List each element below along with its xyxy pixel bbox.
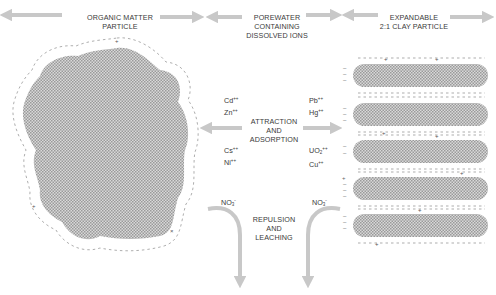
ion-uo2: UO2++: [309, 144, 328, 158]
organic-label-line2: PARTICLE: [80, 22, 160, 31]
porewater-label-line3: DISSOLVED IONS: [242, 31, 312, 40]
attraction-line3: ADSORPTION: [243, 135, 305, 144]
svg-text:–: –: [343, 225, 347, 231]
svg-text:+: +: [375, 241, 379, 247]
svg-text:+: +: [115, 38, 119, 44]
svg-text:+: +: [382, 130, 386, 136]
porewater-label-line2: CONTAINING: [242, 22, 312, 31]
clay-particle-stack: + + + + + + + –––: [342, 56, 488, 247]
attraction-label: ATTRACTION AND ADSORPTION: [243, 117, 305, 144]
attraction-line1: ATTRACTION: [243, 117, 305, 126]
ion-cu: Cu++: [309, 158, 328, 170]
ion-list-left-top: Cd++ Zn++: [224, 94, 238, 118]
attraction-line2: AND: [243, 126, 305, 135]
ion-cs: Cs++: [224, 144, 238, 156]
svg-text:+: +: [435, 56, 439, 62]
svg-text:–: –: [343, 117, 347, 123]
organic-matter-label: ORGANIC MATTER PARTICLE: [80, 13, 160, 31]
svg-text:+: +: [384, 56, 388, 62]
svg-text:–: –: [343, 77, 347, 83]
anion-nitrate-right: NO3-: [312, 196, 327, 210]
ion-list-right-bottom: UO2++ Cu++: [309, 144, 328, 170]
svg-text:–: –: [343, 143, 347, 149]
anion-nitrate-left: NO3-: [221, 196, 236, 210]
clay-layer-5: + +: [353, 207, 488, 247]
porewater-label: POREWATER CONTAINING DISSOLVED IONS: [242, 13, 312, 40]
clay-layer-1: + +: [353, 56, 488, 93]
ion-list-right-top: Pb++ Hg++: [309, 94, 323, 118]
organic-label-line1: ORGANIC MATTER: [80, 13, 160, 22]
repulsion-line2: AND: [243, 224, 305, 233]
clay-layer-2: +: [353, 97, 488, 136]
organic-matter-particle: + + ×: [13, 38, 198, 251]
ion-hg: Hg++: [309, 106, 323, 118]
svg-text:+: +: [435, 133, 439, 139]
ion-pb: Pb++: [309, 94, 323, 106]
diagram-canvas: + + × + + + + +: [0, 0, 496, 295]
clay-layer-4: +: [353, 170, 488, 206]
ion-list-left-bottom: Cs++ Ni++: [224, 144, 238, 168]
clay-layer-3: +: [353, 133, 488, 169]
svg-text:–: –: [343, 193, 347, 199]
svg-text:+: +: [460, 170, 464, 176]
repulsion-line3: LEACHING: [243, 233, 305, 242]
svg-text:×: ×: [170, 228, 174, 234]
svg-text:+: +: [32, 203, 36, 209]
clay-label-line2: 2:1 CLAY PARTICLE: [376, 22, 452, 31]
repulsion-line1: REPULSION: [243, 215, 305, 224]
clay-label-line1: EXPANDABLE: [376, 13, 452, 22]
repulsion-label: REPULSION AND LEACHING: [243, 215, 305, 242]
ion-ni: Ni++: [224, 156, 238, 168]
curved-down-arrow-icon: [208, 208, 240, 282]
ion-cd: Cd++: [224, 94, 238, 106]
porewater-label-line1: POREWATER: [242, 13, 312, 22]
clay-edge-charges: ––– ––– –– +––– –––: [342, 65, 347, 231]
svg-text:–: –: [343, 150, 347, 156]
clay-particle-label: EXPANDABLE 2:1 CLAY PARTICLE: [376, 13, 452, 31]
ion-zn: Zn++: [224, 106, 238, 118]
svg-text:+: +: [418, 207, 422, 213]
curved-down-arrow-icon: [308, 208, 340, 282]
